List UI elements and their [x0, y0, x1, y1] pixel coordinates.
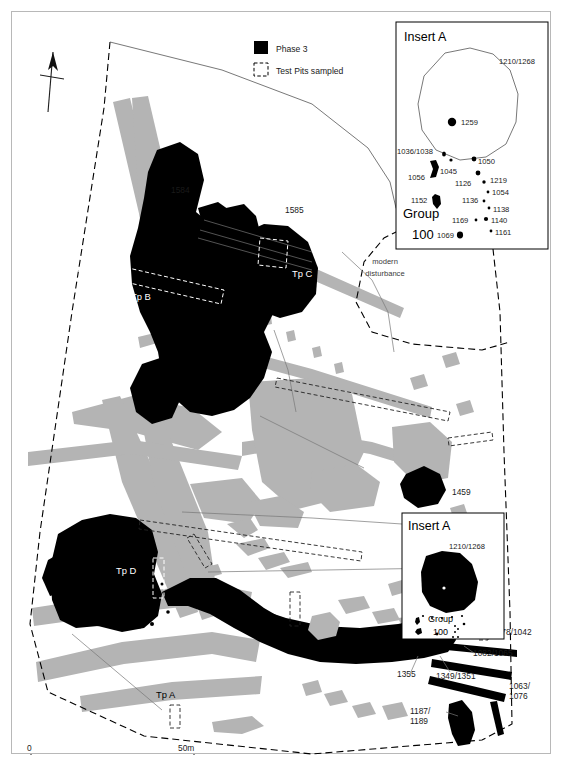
label-tpA: Tp A: [156, 689, 176, 700]
legend-swatch-testpits: [254, 63, 268, 76]
site-plan-svg: Phase 3 Test Pits sampled 1584 1585 1459…: [12, 12, 552, 755]
label-tpC: Tp C: [292, 268, 313, 279]
label-1459: 1459: [452, 487, 471, 497]
label-1349-1351: 1349/1351: [436, 671, 476, 681]
scale-bar: 0 50m: [27, 743, 194, 755]
modern-disturbance-annotation: modern disturbance: [365, 257, 404, 278]
insert-a-top-group-line2: 100: [412, 227, 434, 242]
insert-a-bottom-panel: Insert A 1210/1268 Group 100: [402, 513, 504, 639]
label-1063: 1063/: [509, 681, 531, 691]
label-1189: 1189: [410, 716, 428, 726]
insert-a-top-panel: Insert A 1210/1268 1259 1036/1038 1045 1…: [396, 22, 548, 249]
figure-frame: Phase 3 Test Pits sampled 1584 1585 1459…: [11, 11, 551, 754]
label-1585: 1585: [285, 205, 304, 215]
test-pit-tpA[interactable]: [170, 705, 180, 728]
legend-label-phase3: Phase 3: [276, 44, 308, 54]
insert-a-top-label-1056: 1056: [408, 173, 425, 182]
insert-a-top-label-1259: 1259: [461, 118, 478, 127]
insert-a-top-label-1036-1038: 1036/1038: [397, 147, 433, 156]
label-1082-1065: 1082/1065: [473, 648, 513, 658]
insert-a-top-label-1050: 1050: [478, 157, 495, 166]
insert-a-top-label-1138: 1138: [493, 205, 509, 214]
trench-rect-right: [448, 432, 493, 446]
legend-swatch-phase3: [254, 41, 268, 54]
legend: Phase 3 Test Pits sampled: [254, 41, 344, 76]
north-arrow: [40, 52, 64, 112]
label-1187: 1187/: [410, 706, 431, 716]
label-tpB: Tp B: [131, 291, 151, 302]
scale-bar-end-label: 50m: [178, 743, 194, 753]
insert-a-top-label-1152: 1152: [411, 196, 427, 205]
insert-a-top-label-1161: 1161: [495, 228, 511, 237]
modern-disturbance-line2: disturbance: [365, 269, 404, 278]
insert-a-top-title: Insert A: [404, 30, 447, 44]
legend-label-testpits: Test Pits sampled: [276, 66, 344, 76]
label-tpD: Tp D: [116, 565, 137, 576]
insert-a-top-label-1045: 1045: [440, 167, 457, 176]
insert-a-top-label-1054: 1054: [492, 188, 509, 197]
insert-a-top-label-1126: 1126: [455, 179, 471, 188]
insert-a-top-label-1169: 1169: [452, 216, 468, 225]
insert-a-top-label-1136: 1136: [462, 196, 478, 205]
modern-disturbance-line1: modern: [372, 257, 398, 266]
insert-a-top-label-1219: 1219: [490, 176, 507, 185]
insert-a-top-label-1069: 1069: [437, 231, 454, 240]
label-1584: 1584: [171, 185, 190, 195]
insert-a-top-group-line1: Group: [403, 206, 439, 221]
insert-a-bottom-title: Insert A: [408, 519, 451, 533]
feature-dot-1259: [448, 118, 456, 126]
insert-a-bottom-enclosure-label: 1210/1268: [449, 542, 485, 551]
insert-a-top-label-1140: 1140: [491, 216, 507, 225]
label-1076: 1076: [509, 691, 528, 701]
insert-a-bottom-group-line2: 100: [433, 627, 448, 637]
insert-a-top-enclosure-label: 1210/1268: [499, 57, 535, 66]
scale-bar-start-label: 0: [27, 743, 32, 753]
insert-a-bottom-group-line1: Group: [428, 614, 453, 624]
label-1355: 1355: [397, 669, 416, 679]
